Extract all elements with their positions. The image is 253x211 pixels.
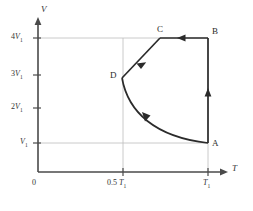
x-axis-label: T xyxy=(232,164,237,173)
ytick-3v1-subscript: 1 xyxy=(20,74,23,80)
origin-label: 0 xyxy=(32,179,36,187)
arrow-a-to-b-icon xyxy=(205,88,212,97)
arrow-c-to-d-icon xyxy=(137,62,147,69)
xtick-half-t1-coefficient: 0.5 xyxy=(107,178,119,187)
point-label-b: B xyxy=(212,27,218,36)
point-label-c: C xyxy=(157,25,163,34)
ytick-label-2v1: 2V1 xyxy=(11,103,23,113)
figure-canvas: V T 0 4V1 3V1 2V1 V1 0.5 T1 T1 A B C D xyxy=(0,0,253,211)
ytick-4v1-subscript: 1 xyxy=(20,37,23,43)
ytick-label-3v1: 3V1 xyxy=(11,70,23,80)
xtick-label-half-t1: 0.5 T1 xyxy=(107,179,126,189)
segment-c-to-d xyxy=(122,38,160,78)
x-axis-arrowhead-icon xyxy=(220,169,228,176)
xtick-t1-subscript: 1 xyxy=(207,183,210,189)
xtick-label-t1: T1 xyxy=(203,179,210,189)
y-axis-label: V xyxy=(41,5,47,14)
segment-d-to-a-curve xyxy=(122,78,208,143)
point-label-d: D xyxy=(110,71,117,80)
ytick-label-4v1: 4V1 xyxy=(11,33,23,43)
point-label-a: A xyxy=(212,139,219,148)
y-axis-arrowhead-icon xyxy=(35,17,42,25)
arrow-b-to-c-icon xyxy=(177,35,186,42)
xtick-half-t1-subscript: 1 xyxy=(123,183,126,189)
ytick-label-v1: V1 xyxy=(20,138,28,148)
ytick-2v1-subscript: 1 xyxy=(20,107,23,113)
ytick-v1-subscript: 1 xyxy=(25,142,28,148)
